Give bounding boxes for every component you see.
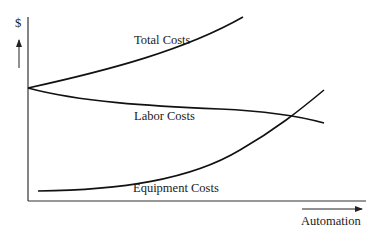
equipment-costs-label: Equipment Costs xyxy=(133,181,219,195)
x-axis-label: Automation xyxy=(301,214,361,228)
total-costs-curve xyxy=(28,17,243,88)
labor-costs-label: Labor Costs xyxy=(134,109,195,123)
equipment-costs-curve xyxy=(38,90,324,191)
y-axis-label: $ xyxy=(15,16,21,30)
total-costs-label: Total Costs xyxy=(134,33,191,47)
cost-automation-diagram: $ Automation Total Costs Labor Costs Equ… xyxy=(0,0,380,236)
